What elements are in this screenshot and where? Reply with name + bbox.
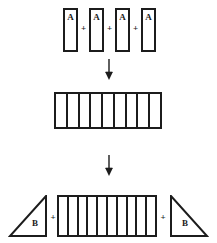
strip-cell xyxy=(59,197,69,235)
unit-rectangle-a-4-label: A xyxy=(143,12,154,22)
strip-cell xyxy=(118,197,128,235)
plus-sign-bottom-right: + xyxy=(158,213,168,222)
unit-rectangle-a-4: A xyxy=(141,8,156,52)
bottom-row-assembly: B + + B xyxy=(0,195,217,239)
strip-cell xyxy=(103,94,115,127)
strip-cell xyxy=(147,197,155,235)
geometric-decomposition-figure: A + A + A + A xyxy=(0,0,217,243)
triangle-b-left xyxy=(8,195,48,237)
unit-rectangle-a-2-label: A xyxy=(91,12,102,22)
strip-cell xyxy=(88,197,98,235)
triangle-b-right xyxy=(169,195,209,237)
strip-cell xyxy=(138,94,150,127)
strip-cell xyxy=(115,94,127,127)
strip-cell xyxy=(150,94,160,127)
strip-cell xyxy=(127,94,139,127)
merged-strip-rectangle xyxy=(54,92,162,129)
plus-sign-top-3: + xyxy=(131,24,140,33)
strip-cell xyxy=(68,94,80,127)
arrow-down-icon-1 xyxy=(104,59,114,81)
unit-rectangle-a-3: A xyxy=(115,8,130,52)
strip-cell xyxy=(91,94,103,127)
strip-cell xyxy=(80,94,92,127)
unit-rectangle-a-1: A xyxy=(63,8,78,52)
plus-sign-top-1: + xyxy=(79,24,88,33)
strip-cell xyxy=(128,197,138,235)
strip-cell xyxy=(56,94,68,127)
unit-rectangle-a-3-label: A xyxy=(117,12,128,22)
strip-cell xyxy=(108,197,118,235)
strip-cell xyxy=(79,197,89,235)
plus-sign-top-2: + xyxy=(105,24,114,33)
strip-cell xyxy=(69,197,79,235)
bottom-strip-rectangle xyxy=(57,195,157,237)
unit-rectangle-a-2: A xyxy=(89,8,104,52)
triangle-b-right-label: B xyxy=(182,219,188,228)
triangle-b-left-label: B xyxy=(32,219,38,228)
unit-rectangle-a-1-label: A xyxy=(65,12,76,22)
strip-cell xyxy=(98,197,108,235)
strip-cell xyxy=(137,197,147,235)
arrow-down-icon-2 xyxy=(104,155,114,177)
top-row-unit-rectangles: A + A + A + A xyxy=(0,8,217,54)
